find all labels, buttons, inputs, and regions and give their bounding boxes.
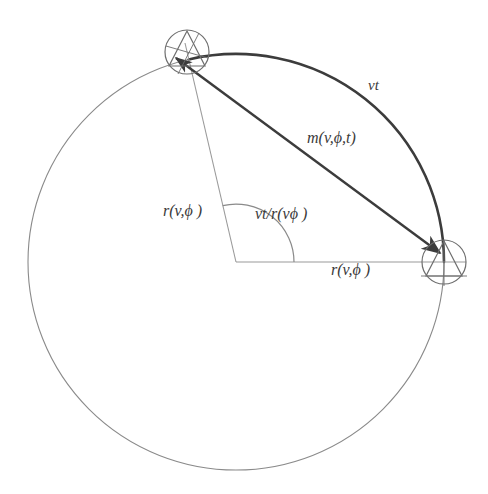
diagram-canvas — [0, 0, 488, 494]
end-node-marker — [421, 240, 467, 286]
label-angle: vt/r(vϕ ) — [255, 206, 307, 222]
label-arc-vt: vt — [368, 78, 379, 93]
geometry-diagram: vt m(v,ϕ,t) r(v,ϕ ) vt/r(vϕ ) r(v,ϕ ) — [0, 0, 488, 494]
label-radius-to-start: r(v,ϕ ) — [163, 203, 202, 219]
label-radius-horizontal: r(v,ϕ ) — [331, 262, 370, 278]
arc-vt — [189, 54, 444, 262]
label-chord-m: m(v,ϕ,t) — [307, 130, 356, 146]
chord-m — [176, 58, 440, 253]
radius-to-start-node — [185, 43, 236, 262]
